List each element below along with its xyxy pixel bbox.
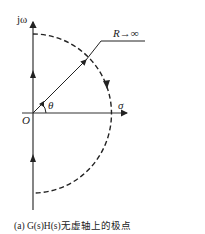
axis-direction-arrow-bottom bbox=[30, 154, 36, 162]
imaginary-axis-label: jω bbox=[17, 13, 27, 25]
radius-label: R→∞ bbox=[113, 27, 139, 39]
angle-label: θ bbox=[48, 99, 53, 111]
arc-direction-arrow bbox=[103, 80, 110, 89]
diagram-svg bbox=[0, 0, 205, 234]
axis-direction-arrow-top bbox=[30, 70, 36, 78]
origin-label: O bbox=[22, 114, 30, 126]
real-axis-label: σ bbox=[118, 99, 123, 111]
cropped-text-line bbox=[0, 0, 110, 2]
figure-caption: (a) G(s)H(s)无虚轴上的极点 bbox=[14, 218, 131, 232]
radius-leader-line bbox=[86, 41, 145, 60]
nyquist-contour-diagram: jω σ O θ R→∞ (a) G(s)H(s)无虚轴上的极点 bbox=[0, 0, 205, 234]
